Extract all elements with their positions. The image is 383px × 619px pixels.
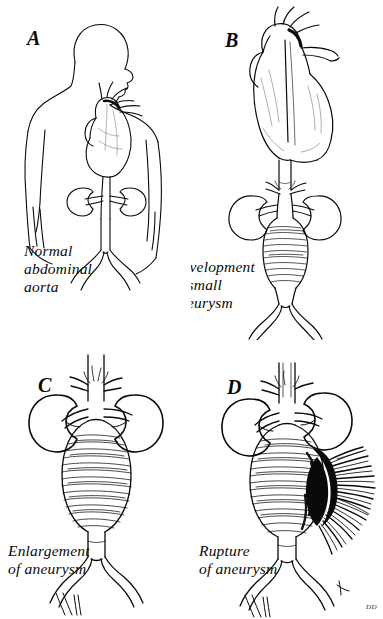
panel-a: A Normal abdominal aorta: [0, 0, 192, 310]
panel-caption-b: Development of small aneurysm: [191, 258, 255, 312]
panel-caption-d: Rupture of aneurysm: [199, 542, 277, 578]
aneurysm-progression-figure: A Normal abdominal aorta: [0, 0, 383, 619]
panel-caption-c: Enlargement of aneurysm: [8, 542, 90, 578]
panel-d: D Rupture of aneurysm DD: [191, 345, 383, 619]
panel-letter-b: B: [225, 30, 239, 50]
panel-letter-d: D: [227, 377, 242, 397]
panel-letter-c: C: [38, 375, 52, 395]
panel-b: B Development of small aneurysm: [191, 0, 383, 340]
panel-letter-a: A: [27, 28, 41, 48]
panel-c: C Enlargement of aneurysm: [0, 345, 192, 619]
panel-caption-a: Normal abdominal aorta: [24, 242, 92, 296]
artist-signature: DD: [366, 603, 377, 611]
